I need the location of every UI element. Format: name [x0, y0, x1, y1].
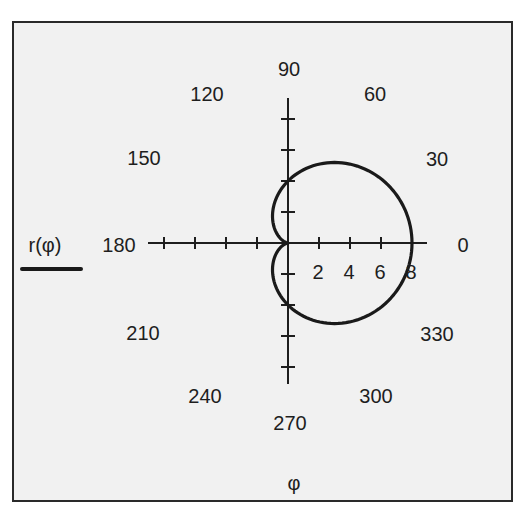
radial-label-2: 2 — [312, 261, 323, 283]
axes — [148, 98, 427, 384]
angle-label-210: 210 — [126, 322, 159, 344]
angle-label-150: 150 — [127, 147, 160, 169]
radial-label-6: 6 — [374, 261, 385, 283]
angle-label-90: 90 — [278, 58, 300, 80]
angle-label-330: 330 — [420, 323, 453, 345]
radial-label-4: 4 — [343, 261, 354, 283]
angle-label-180: 180 — [102, 234, 135, 256]
angle-label-0: 0 — [457, 234, 468, 256]
angle-label-120: 120 — [190, 83, 223, 105]
x-axis-label: φ — [288, 472, 301, 494]
angle-label-270: 270 — [273, 412, 306, 434]
angle-label-240: 240 — [188, 385, 221, 407]
angle-label-30: 30 — [426, 148, 448, 170]
angle-label-300: 300 — [359, 385, 392, 407]
legend-label: r(φ) — [29, 234, 62, 256]
polar-chart: 90 60 30 0 330 300 270 240 210 180 150 1… — [0, 0, 521, 517]
radial-label-8: 8 — [405, 261, 416, 283]
angle-label-60: 60 — [364, 83, 386, 105]
